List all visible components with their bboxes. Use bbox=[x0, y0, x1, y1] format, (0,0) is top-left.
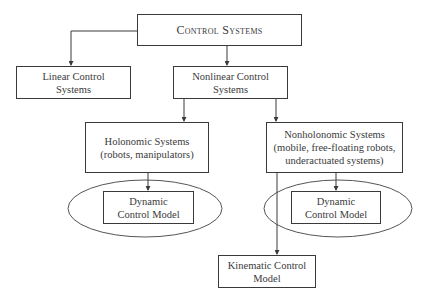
node-kinematic-control-model: Kinematic Control Model bbox=[218, 255, 316, 288]
node-label: (robots, manipulators) bbox=[100, 148, 193, 161]
node-label: Systems bbox=[56, 83, 91, 96]
node-label: Model bbox=[253, 272, 280, 285]
node-label: Kinematic Control bbox=[228, 259, 306, 272]
node-label: Holonomic Systems bbox=[105, 135, 190, 148]
node-label: Nonlinear Control bbox=[192, 70, 269, 83]
node-label: Dynamic bbox=[129, 195, 168, 208]
node-label: (mobile, free-floating robots, bbox=[274, 141, 396, 154]
node-label: Control Model bbox=[117, 208, 179, 221]
node-label: Systems bbox=[213, 83, 248, 96]
node-linear-control-systems: Linear Control Systems bbox=[16, 66, 131, 99]
node-holonomic-systems: Holonomic Systems (robots, manipulators) bbox=[85, 122, 209, 173]
edge-root-linear bbox=[71, 31, 137, 65]
node-label: Linear Control bbox=[42, 70, 104, 83]
node-label: Nonholonomic Systems bbox=[284, 128, 385, 141]
node-dynamic-control-model-left: Dynamic Control Model bbox=[103, 191, 194, 224]
node-nonlinear-control-systems: Nonlinear Control Systems bbox=[173, 66, 288, 99]
node-control-systems: Control Systems bbox=[137, 14, 302, 46]
node-label: Control Systems bbox=[176, 24, 262, 37]
node-label: Control Model bbox=[305, 208, 367, 221]
node-dynamic-control-model-right: Dynamic Control Model bbox=[291, 191, 381, 224]
node-label: underactuated systems) bbox=[285, 154, 383, 167]
node-label: Dynamic bbox=[317, 195, 356, 208]
node-nonholonomic-systems: Nonholonomic Systems (mobile, free-float… bbox=[266, 122, 403, 173]
